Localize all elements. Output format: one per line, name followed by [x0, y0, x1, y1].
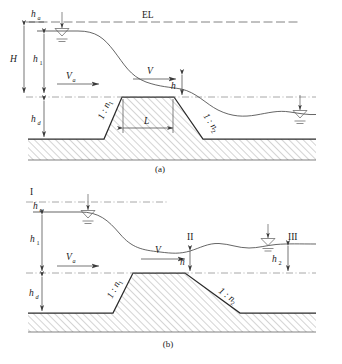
label-upstream-slope-a: 1 : n 1 [96, 98, 115, 121]
panel-a-diagram: H h 1 h a h d V a V h [0, 0, 342, 182]
hydraulic-embankment-figure: H h 1 h a h d V a V h [0, 0, 342, 364]
ground-embankment-a [28, 97, 316, 160]
label-Va-sub-a: a [73, 76, 76, 83]
label-h1-a: h [33, 54, 38, 64]
label-H-a: H [9, 54, 18, 64]
label-Va-sub-b: a [73, 257, 76, 264]
label-ha-b: h [33, 201, 38, 211]
water-surface-profile-b [80, 212, 316, 253]
label-V-b: V [155, 245, 162, 255]
label-section-III-b: III [288, 232, 298, 242]
label-ha-sub-a: a [38, 14, 41, 21]
label-h-b: h [180, 257, 185, 267]
caption-b: (b) [163, 339, 174, 349]
label-h2-sub-b: 2 [279, 259, 282, 266]
water-level-symbol-upstream-b [81, 194, 95, 224]
label-ha-sub-b: a [40, 206, 43, 213]
water-level-symbol-downstream-a [293, 95, 307, 124]
label-hd-sub-b: d [36, 293, 40, 300]
label-hd-sub-a: d [38, 119, 42, 126]
label-EL-a: EL [142, 10, 154, 20]
label-ha-a: h [31, 9, 36, 19]
label-h1-sub-a: 1 [40, 59, 43, 66]
label-h2-b: h [272, 254, 277, 264]
caption-a: (a) [155, 164, 165, 174]
label-downstream-slope-a: 1 : n 2 [200, 111, 221, 134]
label-h-a: h [171, 81, 176, 91]
label-L-a: L [143, 116, 149, 126]
panel-b-diagram: I II III h a h 1 h d V a V h [0, 182, 342, 364]
water-level-symbol-downstream-b [261, 224, 275, 251]
label-section-I-b: I [30, 187, 33, 197]
label-V-a: V [147, 66, 154, 76]
water-level-symbol-upstream-a [55, 12, 69, 42]
label-hd-b: h [29, 288, 34, 298]
label-hd-a: h [31, 114, 36, 124]
label-h1-sub-b: 1 [37, 239, 40, 246]
label-section-II-b: II [187, 232, 193, 242]
ground-embankment-b [28, 273, 316, 332]
label-h1-b: h [30, 234, 35, 244]
